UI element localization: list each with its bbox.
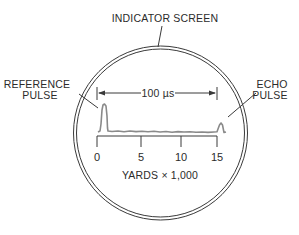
echo-pulse-label-line2: PULSE (252, 89, 287, 101)
reference-pulse-leader (79, 94, 98, 108)
pulse-trace (98, 104, 226, 133)
reference-pulse-label-line2: PULSE (22, 89, 57, 101)
screen-outer-ring (74, 46, 248, 220)
interval-right-arrowhead-icon (209, 91, 216, 96)
axis-tick-label-5: 5 (138, 151, 144, 163)
axis-tick-label-10: 10 (175, 151, 187, 163)
axis-tick-label-15: 15 (211, 151, 223, 163)
indicator-screen-label: INDICATOR SCREEN (112, 12, 219, 24)
range-axis: 0 5 10 15 YARDS × 1,000 (94, 136, 223, 181)
radar-indicator-diagram: INDICATOR SCREEN REFERENCE PULSE ECHO PU… (0, 0, 299, 235)
screen-inner-ring (77, 49, 245, 217)
axis-tick-label-0: 0 (94, 151, 100, 163)
indicator-screen (74, 46, 248, 220)
interval-label: 100 µs (142, 87, 175, 99)
interval-left-arrowhead-icon (98, 91, 105, 96)
indicator-screen-leader (158, 26, 162, 47)
interval-dimension: 100 µs (97, 87, 217, 100)
axis-label: YARDS × 1,000 (122, 169, 198, 181)
